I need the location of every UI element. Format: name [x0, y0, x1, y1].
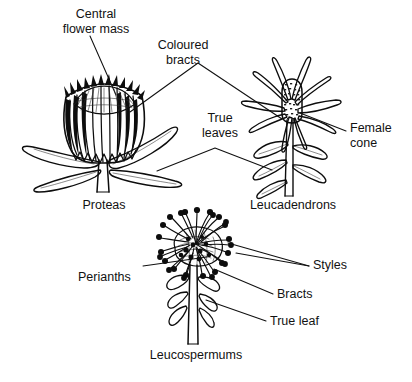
botanical-diagram: Central flower mass Coloured bracts True… [0, 0, 412, 382]
callout-true-leaf: True leaf [270, 314, 319, 328]
callout-perianths: Perianths [78, 270, 131, 284]
caption-leucadendrons: Leucadendrons [250, 198, 336, 212]
callout-female-cone-line2: cone [350, 136, 377, 150]
callout-female-cone-line1: Female [350, 121, 392, 135]
caption-proteas: Proteas [82, 198, 125, 212]
callout-central-flower-mass-line1: Central [76, 7, 116, 21]
callout-central-flower-mass-line2: flower mass [63, 22, 130, 36]
figure-background [0, 0, 412, 382]
callout-coloured-bracts-line2: bracts [166, 53, 200, 67]
callout-coloured-bracts-line1: Coloured [158, 38, 209, 52]
callout-true-leaves-line1: True [207, 111, 232, 125]
caption-leucospermums: Leucospermums [150, 348, 242, 362]
callout-true-leaves-line2: leaves [202, 126, 238, 140]
callout-styles: Styles [313, 258, 347, 272]
protea-family-figure: Central flower mass Coloured bracts True… [0, 0, 412, 382]
callout-bracts: Bracts [277, 287, 312, 301]
